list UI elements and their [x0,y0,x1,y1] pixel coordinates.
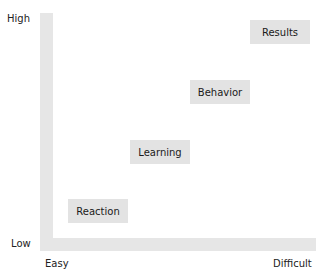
level-box-results: Results [250,20,310,44]
x-axis-bar [40,238,316,251]
y-axis-bar [40,13,53,250]
x-axis-easy-label: Easy [45,258,69,269]
level-box-learning: Learning [130,140,190,164]
y-axis-low-label: Low [11,238,31,249]
y-axis-high-label: High [7,13,30,24]
level-box-reaction: Reaction [68,199,128,223]
level-box-behavior: Behavior [190,80,250,104]
x-axis-difficult-label: Difficult [273,258,312,269]
